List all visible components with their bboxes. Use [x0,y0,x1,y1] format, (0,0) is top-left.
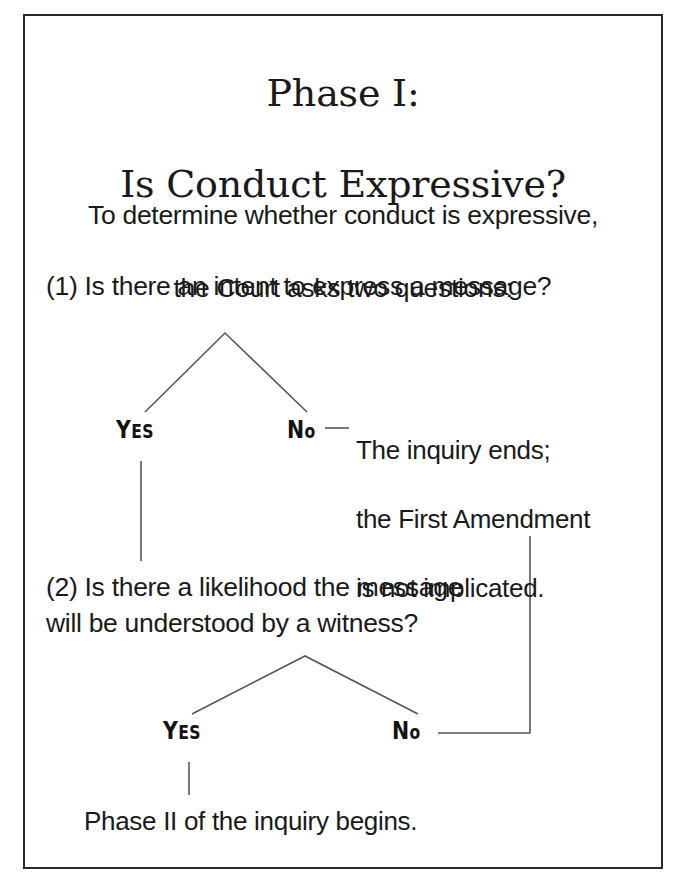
outcome-final-node: Phase II of the inquiry begins. [84,805,584,839]
branch-label-yes-2: YES [163,716,201,745]
intro-line-1: To determine whether conduct is expressi… [33,197,653,234]
outcome-no-1-line-2: the First Amendment [356,502,646,537]
branch-label-no-2: No [392,716,421,745]
no-1-cap: N [287,415,304,444]
no-2-cap: N [392,716,409,745]
question-2-node: (2) Is there a likelihood the message wi… [46,569,516,641]
flowchart-page: Phase I: Is Conduct Expressive? To deter… [0,0,688,895]
yes-1-cap: Y [116,415,131,444]
question-1-node: (1) Is there an intent to express a mess… [46,269,646,305]
title-line-1: Phase I: [23,71,663,116]
no-2-rest: o [409,721,420,743]
intro-text: To determine whether conduct is expressi… [33,160,653,343]
outcome-no-1-line-1: The inquiry ends; [356,433,646,468]
branch-label-yes-1: YES [116,415,154,444]
yes-2-rest: ES [178,721,201,743]
yes-2-cap: Y [163,716,178,745]
no-1-rest: o [304,420,315,442]
yes-1-rest: ES [131,420,154,442]
branch-label-no-1: No [287,415,316,444]
